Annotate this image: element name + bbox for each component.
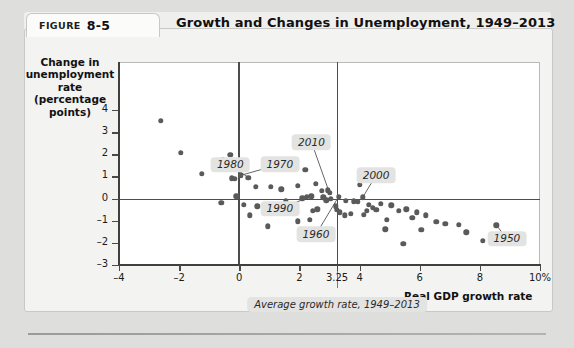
x-tick-label: 10% [520,272,560,283]
y-axis [118,62,120,266]
y-tick-label: 2 [78,147,108,158]
y-tick [112,110,118,111]
x-tick [119,265,120,271]
x-tick [480,265,481,271]
x-tick [337,265,338,271]
x-tick [239,265,240,271]
y-tick [112,154,118,155]
bottom-divider [28,333,546,335]
average-growth-reference-line [337,62,338,265]
year-callout-2010: 2010 [292,134,331,150]
x-tick [179,265,180,271]
x-tick-label: 0 [219,272,259,283]
y-tick-label: 1 [78,169,108,180]
year-callout-1970: 1970 [261,157,300,173]
y-tick [112,176,118,177]
year-callout-1950: 1950 [488,231,527,247]
x-axis [118,264,541,266]
x-tick-label: –4 [99,272,139,283]
year-callout-1980: 1980 [211,157,250,173]
year-callout-1960: 1960 [297,227,336,243]
y-tick-label: –2 [78,236,108,247]
x-tick [299,265,300,271]
scatter-plot: Change in unemployment rate (percentage … [0,0,574,348]
y-tick [112,132,118,133]
y-tick-label: 3 [78,125,108,136]
year-callout-2000: 2000 [357,168,396,184]
y-tick [112,199,118,200]
average-growth-note: Average growth rate, 1949–2013 [247,297,427,312]
x-tick-label: 8 [460,272,500,283]
x-tick [360,265,361,271]
y-tick [112,243,118,244]
year-callout-1990: 1990 [261,201,300,217]
x-tick-label: 4 [340,272,380,283]
y-tick-label: 0 [78,192,108,203]
x-tick-label: –2 [159,272,199,283]
y-tick-label: –3 [78,258,108,269]
y-tick [112,265,118,266]
x-tick [420,265,421,271]
x-tick [540,265,541,271]
y-tick-label: –1 [78,214,108,225]
x-tick-label: 6 [400,272,440,283]
x-tick-label: 2 [279,272,319,283]
y-tick [112,221,118,222]
y-tick-label: 4 [78,103,108,114]
